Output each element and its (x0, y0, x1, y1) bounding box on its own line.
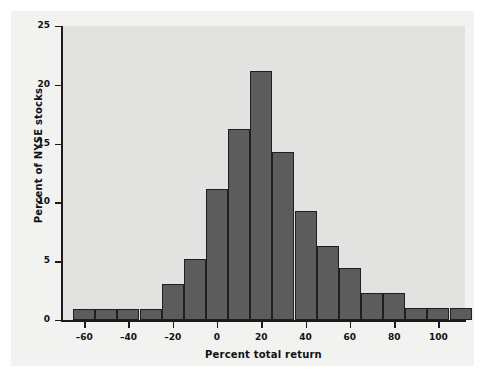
y-tick-label: 25 (24, 20, 50, 30)
y-tick (55, 26, 61, 27)
x-tick-label: 60 (330, 332, 370, 342)
x-tick-label: –40 (108, 332, 148, 342)
y-tick (55, 202, 61, 203)
x-tick-label: –20 (153, 332, 193, 342)
x-tick (173, 322, 174, 328)
x-tick (128, 322, 129, 328)
x-tick (438, 322, 439, 328)
y-tick (55, 261, 61, 262)
x-tick (217, 322, 218, 328)
y-tick (55, 144, 61, 145)
x-tick-label: –60 (64, 332, 104, 342)
x-tick-label: 0 (197, 332, 237, 342)
axes-lines (0, 0, 491, 377)
x-tick (84, 322, 85, 328)
figure-container: 0510152025 –60–40–20020406080100 Percent… (0, 0, 491, 377)
x-tick-label: 20 (241, 332, 281, 342)
x-tick-label: 80 (374, 332, 414, 342)
x-tick (394, 322, 395, 328)
y-axis-line (61, 26, 63, 321)
x-axis-line (61, 320, 466, 322)
y-tick (55, 85, 61, 86)
y-axis-label: Percent of NYSE stocks (33, 46, 44, 266)
x-tick (261, 322, 262, 328)
x-tick (306, 322, 307, 328)
x-tick (350, 322, 351, 328)
x-axis-label: Percent total return (62, 349, 465, 360)
x-tick-label: 40 (286, 332, 326, 342)
x-tick-label: 100 (418, 332, 458, 342)
y-tick (55, 320, 61, 321)
y-tick-label: 0 (24, 314, 50, 324)
